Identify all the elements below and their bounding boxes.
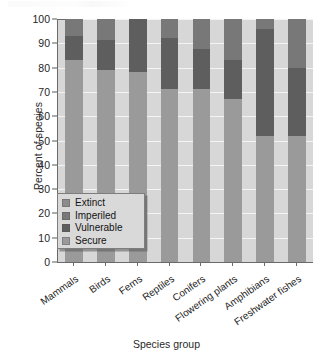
bar-segment-imperiled[interactable]: [161, 19, 179, 38]
y-axis-tick-label: 70: [22, 87, 50, 98]
bar-segment-imperiled[interactable]: [224, 19, 242, 60]
x-axis-tick-mark: [200, 262, 201, 266]
bar-segment-vulnerable[interactable]: [129, 19, 147, 72]
bar-segment-imperiled[interactable]: [193, 19, 211, 49]
y-axis-tick-mark: [52, 189, 57, 190]
y-axis-tick-label: 20: [22, 208, 50, 219]
bar-segment-vulnerable[interactable]: [193, 49, 211, 89]
y-axis-tick-mark: [52, 91, 57, 92]
y-axis-tick-label: 40: [22, 160, 50, 171]
bar-conifers[interactable]: [193, 19, 211, 262]
bar-segment-vulnerable[interactable]: [224, 60, 242, 99]
y-axis-tick-mark: [52, 116, 57, 117]
y-axis-tick-label: 50: [22, 135, 50, 146]
x-axis-tick-mark: [137, 262, 138, 266]
bar-segment-vulnerable[interactable]: [65, 36, 83, 60]
legend-item-imperiled[interactable]: Imperiled: [62, 210, 140, 222]
x-axis-tick-mark: [73, 262, 74, 266]
legend-item-extinct[interactable]: Extinct: [62, 197, 140, 209]
bar-segment-secure[interactable]: [224, 99, 242, 262]
y-axis-tick-mark: [52, 213, 57, 214]
legend-swatch-icon: [62, 199, 70, 207]
y-axis-tick-mark: [52, 19, 57, 20]
bar-flowering-plants[interactable]: [224, 19, 242, 262]
bar-freshwater-fishes[interactable]: [288, 19, 306, 262]
bar-segment-imperiled[interactable]: [97, 19, 115, 40]
legend-item-label: Secure: [75, 236, 107, 246]
legend-item-vulnerable[interactable]: Vulnerable: [62, 222, 140, 234]
bar-segment-secure[interactable]: [193, 89, 211, 262]
y-axis-tick-mark: [52, 164, 57, 165]
y-axis-tick-label: 10: [22, 232, 50, 243]
y-axis-top-cap: [57, 19, 65, 20]
bar-segment-imperiled[interactable]: [288, 19, 306, 68]
y-axis-tick-mark: [52, 140, 57, 141]
legend-swatch-icon: [62, 224, 70, 232]
bar-segment-vulnerable[interactable]: [256, 29, 274, 136]
bar-segment-imperiled[interactable]: [65, 19, 83, 36]
bar-segment-imperiled[interactable]: [256, 19, 274, 29]
y-axis-tick-label: 30: [22, 184, 50, 195]
y-axis-tick-label: 80: [22, 62, 50, 73]
x-axis-tick-mark: [169, 262, 170, 266]
y-axis-tick-label: 100: [22, 14, 50, 25]
species-status-chart-figure: Percent of species 010203040506070809010…: [0, 0, 333, 357]
y-axis-tick-label: 0: [22, 257, 50, 268]
y-axis-tick-label: 90: [22, 38, 50, 49]
legend-item-label: Vulnerable: [75, 223, 122, 233]
bar-segment-vulnerable[interactable]: [97, 40, 115, 70]
y-axis-tick-mark: [52, 67, 57, 68]
x-axis-line: [57, 262, 313, 263]
bar-segment-vulnerable[interactable]: [161, 38, 179, 89]
y-axis-tick-label: 60: [22, 111, 50, 122]
bar-segment-secure[interactable]: [161, 89, 179, 262]
bar-segment-vulnerable[interactable]: [288, 68, 306, 136]
x-axis-tick-mark: [105, 262, 106, 266]
bar-amphibians[interactable]: [256, 19, 274, 262]
bar-reptiles[interactable]: [161, 19, 179, 262]
legend-swatch-icon: [62, 237, 70, 245]
bar-segment-secure[interactable]: [256, 136, 274, 262]
chart-legend: ExtinctImperiledVulnerableSecure: [57, 193, 145, 249]
legend-item-label: Imperiled: [75, 211, 116, 221]
legend-item-label: Extinct: [75, 198, 105, 208]
y-axis-tick-mark: [52, 262, 57, 263]
legend-swatch-icon: [62, 212, 70, 220]
x-axis-tick-mark: [232, 262, 233, 266]
legend-item-secure[interactable]: Secure: [62, 235, 140, 247]
y-axis-tick-mark: [52, 43, 57, 44]
x-axis-tick-mark: [296, 262, 297, 266]
x-axis-title: Species group: [0, 338, 333, 350]
y-axis-tick-mark: [52, 237, 57, 238]
x-axis-tick-mark: [264, 262, 265, 266]
bar-segment-secure[interactable]: [288, 136, 306, 262]
